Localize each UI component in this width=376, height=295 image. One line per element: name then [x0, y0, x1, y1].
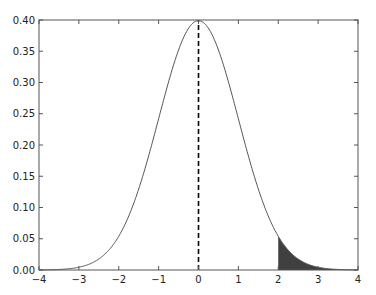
x-tick-label: 4	[355, 274, 361, 285]
y-axis-ticks: 0.000.050.100.150.200.250.300.350.40	[13, 15, 358, 276]
y-tick-label: 0.20	[13, 140, 35, 151]
x-tick-label: 0	[195, 274, 201, 285]
y-tick-label: 0.30	[13, 77, 35, 88]
x-axis-ticks: −4−3−2−101234	[32, 20, 362, 285]
x-tick-label: 3	[315, 274, 321, 285]
y-tick-label: 0.25	[13, 108, 35, 119]
x-tick-label: −1	[151, 274, 166, 285]
y-tick-label: 0.10	[13, 202, 35, 213]
y-tick-label: 0.05	[13, 233, 35, 244]
y-tick-label: 0.40	[13, 15, 35, 26]
x-tick-label: 2	[275, 274, 281, 285]
y-tick-label: 0.35	[13, 46, 35, 57]
y-tick-label: 0.15	[13, 171, 35, 182]
y-tick-label: 0.00	[13, 265, 35, 276]
shaded-area	[278, 236, 358, 270]
x-tick-label: 1	[235, 274, 241, 285]
x-tick-label: −2	[111, 274, 126, 285]
x-tick-label: −4	[32, 274, 47, 285]
normal-distribution-chart: −4−3−2−101234 0.000.050.100.150.200.250.…	[0, 0, 376, 295]
x-tick-label: −3	[72, 274, 87, 285]
shaded-right-tail	[278, 236, 358, 270]
